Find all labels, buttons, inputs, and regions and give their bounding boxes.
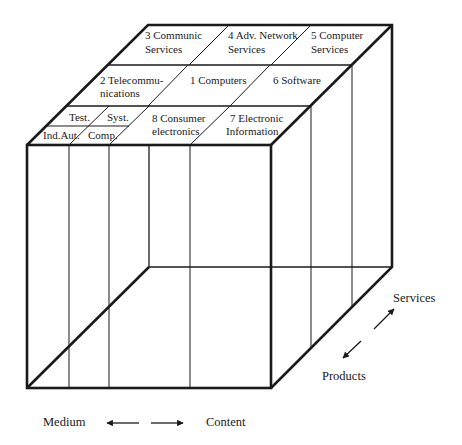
arrow-up-right-icon: [374, 309, 394, 329]
cell-2-label: 2 Telecommu-nications: [100, 74, 164, 99]
back-edges: [27, 145, 392, 388]
cell-3-label: 3 CommunicServices: [145, 29, 202, 55]
axis-label-content: Content: [206, 415, 246, 429]
cell-7-label: 7 ElectronicInformation: [226, 112, 284, 137]
cell-test-label: Test.: [69, 111, 90, 123]
cell-labels: 3 CommunicServices 4 Adv. NetworkService…: [43, 29, 364, 141]
cube-diagram: 3 CommunicServices 4 Adv. NetworkService…: [0, 0, 462, 445]
arrow-down-left-icon: [343, 341, 361, 358]
side-face-dividers: [311, 65, 352, 347]
cell-indaut-label: Ind.Aut.: [43, 129, 80, 141]
bottom-left-depth-edge: [27, 267, 149, 388]
cell-6-label: 6 Software: [273, 74, 321, 86]
axis-label-medium: Medium: [43, 415, 86, 429]
cell-8-label: 8 Consumerelectronics: [152, 112, 206, 137]
cell-5-label: 5 ComputerServices: [311, 29, 364, 55]
cell-4-label: 4 Adv. NetworkServices: [228, 29, 298, 55]
cell-1-label: 1 Computers: [190, 74, 247, 86]
axis-label-products: Products: [322, 369, 366, 383]
axis-label-services: Services: [393, 291, 435, 305]
axis-indicators: Medium Content Services Products: [43, 291, 435, 429]
cell-comp-label: Comp.: [88, 129, 118, 141]
cell-syst-label: Syst.: [107, 111, 129, 123]
